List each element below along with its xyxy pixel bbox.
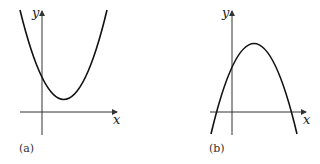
figure: x y (a) x y (b) — [0, 0, 320, 164]
parabola-down — [211, 44, 297, 135]
x-label-a: x — [113, 112, 121, 127]
y-label-a: y — [31, 5, 40, 20]
caption-b: (b) — [209, 142, 225, 155]
y-label-b: y — [221, 5, 230, 20]
panel-a: x y (a) — [19, 5, 121, 155]
figure-svg: x y (a) x y (b) — [0, 0, 320, 164]
x-label-b: x — [303, 112, 311, 127]
panel-b: x y (b) — [209, 5, 311, 155]
parabola-up — [20, 10, 107, 100]
caption-a: (a) — [19, 142, 34, 155]
